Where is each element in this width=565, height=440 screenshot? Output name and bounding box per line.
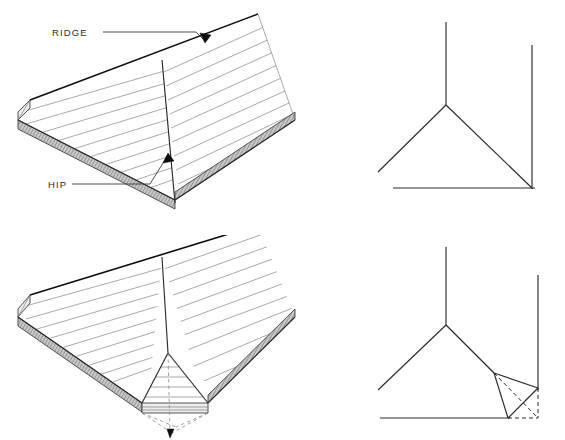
ridge-label: RIDGE — [52, 27, 88, 38]
plan-hip-left — [378, 325, 446, 390]
isometric-hip-end-view — [0, 235, 300, 440]
fascia-hip-end — [142, 403, 208, 413]
plan-hip-left — [378, 105, 446, 172]
roof-plane-left — [18, 60, 175, 200]
roof-plane-left — [18, 257, 168, 403]
plan-hip-roof-view — [370, 0, 565, 225]
isometric-hip-roof-view: RIDGE HIP — [0, 0, 300, 225]
hip-label: HIP — [48, 179, 67, 190]
plan-hip-right — [446, 325, 494, 373]
roof-framing-figure: RIDGE HIP — [0, 0, 565, 440]
detail-edge-top — [494, 373, 538, 388]
plan-hip-right — [446, 105, 532, 188]
construction-arrowhead — [167, 429, 174, 438]
plan-hip-end-view — [370, 235, 565, 440]
